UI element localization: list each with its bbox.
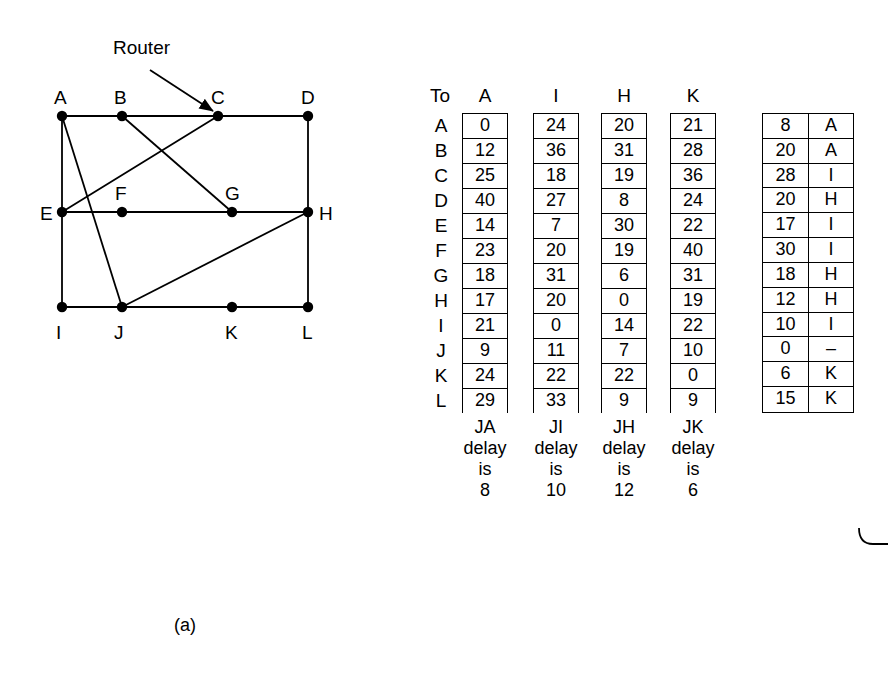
vector-column-caption-k: JK delay is 6 [660,417,726,501]
graph-node-label-d: D [301,88,315,107]
vector-cell: 6 [602,264,646,289]
graph-edge-j-h [122,212,308,307]
vector-cell: 7 [534,214,578,239]
graph-node-e[interactable] [57,207,67,217]
routing-delay-cell: 30 [763,238,809,262]
graph-node-i[interactable] [57,302,67,312]
graph-node-label-b: B [114,88,127,107]
row-label-a: A [428,116,454,135]
routing-delay-cell: 10 [763,313,809,337]
vector-cell: 33 [534,389,578,414]
routing-line-cell: I [809,238,853,262]
routing-line-cell: I [809,164,853,188]
row-label-c: C [428,166,454,185]
figure-root: Router ABCDEFGHIJKL (a) To New estimated… [0,0,888,673]
vector-cell: 18 [534,164,578,189]
routing-delay-cell: 12 [763,288,809,312]
row-label-l: L [428,391,454,410]
vector-cell: 40 [671,239,715,264]
network-graph-panel: Router ABCDEFGHIJKL (a) [0,0,420,600]
vector-cell: 11 [534,339,578,364]
routing-line-cell: – [809,337,853,361]
vector-cell: 27 [534,189,578,214]
vector-cell: 20 [534,239,578,264]
graph-node-label-l: L [302,323,313,342]
row-label-b: B [428,141,454,160]
routing-tables-panel: To New estimated delay from J Line ABCDE… [420,0,888,600]
graph-node-label-k: K [225,323,238,342]
vector-column-a: 0122540142318172192429 [462,113,508,413]
routing-table-row: 10I [763,313,853,338]
vector-column-k: 2128362422403119221009 [670,113,716,413]
to-header: To [430,86,466,105]
vector-cell: 28 [671,139,715,164]
vector-cell: 36 [534,139,578,164]
vector-cell: 14 [463,214,507,239]
graph-node-label-h: H [319,204,333,223]
row-label-i: I [428,316,454,335]
routing-delay-cell: 15 [763,387,809,412]
vector-cell: 31 [602,139,646,164]
graph-node-k[interactable] [227,302,237,312]
vector-cell: 40 [463,189,507,214]
graph-edge-c-e [62,116,218,212]
vector-cell: 19 [602,164,646,189]
row-label-f: F [428,241,454,260]
vector-column-caption-i: JI delay is 10 [523,417,589,501]
routing-table-row: 30I [763,238,853,263]
routing-table-row: 12H [763,288,853,313]
vector-cell: 9 [671,389,715,414]
graph-node-label-g: G [225,184,240,203]
vector-cell: 24 [671,189,715,214]
vector-cell: 22 [671,214,715,239]
graph-node-label-f: F [115,184,127,203]
vector-cell: 12 [463,139,507,164]
graph-node-label-c: C [211,88,225,107]
routing-line-cell: I [809,313,853,337]
graph-node-l[interactable] [303,302,313,312]
router-annotation-label: Router [113,38,170,58]
graph-node-h[interactable] [303,207,313,217]
row-label-k: K [428,366,454,385]
graph-node-j[interactable] [117,302,127,312]
routing-delay-cell: 20 [763,188,809,212]
vector-cell: 20 [534,289,578,314]
graph-node-label-i: I [56,323,61,342]
vector-column-header-k: K [670,86,716,105]
vector-cell: 29 [463,389,507,414]
routing-line-cell: H [809,288,853,312]
routing-line-cell: A [809,139,853,163]
routing-table-row: 20A [763,139,853,164]
graph-node-f[interactable] [117,207,127,217]
graph-node-g[interactable] [227,207,237,217]
routing-delay-cell: 0 [763,337,809,361]
routing-delay-cell: 8 [763,114,809,138]
vector-column-h: 2031198301960147229 [601,113,647,413]
vectors-received-caption: Vectors received from J's four neighbors [855,550,888,594]
routing-line-cell: K [809,362,853,386]
vector-cell: 31 [671,264,715,289]
row-label-j: J [428,341,454,360]
vector-cell: 21 [463,314,507,339]
routing-table-row: 6K [763,362,853,387]
vector-column-header-a: A [462,86,508,105]
routing-delay-cell: 18 [763,263,809,287]
vector-column-caption-h: JH delay is 12 [591,417,657,501]
routing-line-cell: H [809,263,853,287]
vector-cell: 7 [602,339,646,364]
routing-table-row: 17I [763,213,853,238]
routing-line-cell: I [809,213,853,237]
vector-column-header-h: H [601,86,647,105]
router-pointer-arrow [0,0,420,130]
vector-cell: 25 [463,164,507,189]
routing-line-cell: H [809,188,853,212]
routing-delay-cell: 6 [763,362,809,386]
routing-delay-cell: 20 [763,139,809,163]
row-label-d: D [428,191,454,210]
graph-node-label-e: E [40,204,53,223]
figure-caption-a: (a) [155,616,215,634]
routing-line-cell: K [809,387,853,412]
vector-cell: 20 [602,114,646,139]
routing-table-row: 18H [763,263,853,288]
vector-cell: 31 [534,264,578,289]
